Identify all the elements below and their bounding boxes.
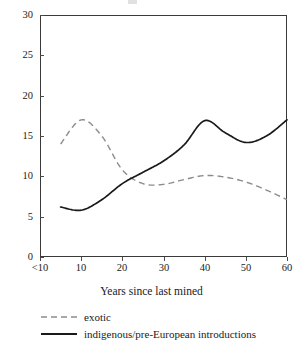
- x-tick-mark: [246, 257, 247, 261]
- legend-label-indigenous: indigenous/pre-European introductions: [84, 328, 256, 340]
- x-tick-label-40: 40: [185, 263, 225, 274]
- x-tick-mark: [164, 257, 165, 261]
- y-tick-label-30: 30: [3, 10, 33, 21]
- series-line-indigenous: [61, 120, 287, 211]
- x-tick-label-50: 50: [226, 263, 266, 274]
- x-tick-mark: [287, 257, 288, 261]
- y-tick-label-10: 10: [3, 171, 33, 182]
- chart-lines: [40, 15, 287, 257]
- y-tick-label-25: 25: [3, 50, 33, 61]
- x-tick-mark: [81, 257, 82, 261]
- x-tick-label-10: 10: [61, 263, 101, 274]
- y-tick-label-15: 15: [3, 131, 33, 142]
- x-tick-label-60: 60: [267, 263, 303, 274]
- figure-container: 30 25 20 15 10 5 0 <10 10 20 30 40 50 60…: [0, 0, 303, 353]
- x-tick-mark: [122, 257, 123, 261]
- y-tick-label-5: 5: [3, 212, 33, 223]
- x-tick-label-lt10: <10: [20, 263, 60, 274]
- x-tick-label-20: 20: [102, 263, 142, 274]
- solid-line-sample-icon: [40, 328, 78, 340]
- series-line-exotic: [61, 120, 287, 200]
- clipped-title-artifact: [128, 0, 137, 4]
- x-tick-label-30: 30: [144, 263, 184, 274]
- legend-item-exotic: exotic: [40, 308, 303, 325]
- y-tick-label-0: 0: [3, 252, 33, 263]
- dashed-line-sample-icon: [40, 311, 78, 323]
- legend-label-exotic: exotic: [84, 311, 111, 323]
- x-axis-title: Years since last mined: [0, 285, 303, 297]
- legend-item-indigenous: indigenous/pre-European introductions: [40, 325, 303, 342]
- chart-legend: exotic indigenous/pre-European introduct…: [40, 308, 303, 342]
- x-tick-mark: [40, 257, 41, 261]
- x-tick-mark: [205, 257, 206, 261]
- y-tick-label-20: 20: [3, 91, 33, 102]
